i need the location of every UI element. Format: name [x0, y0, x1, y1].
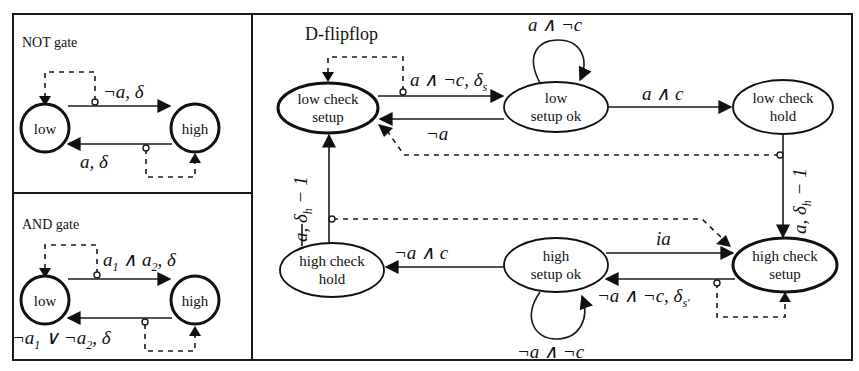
- not-gate-panel: NOT gate low high ¬a, δ a, δ: [21, 35, 219, 177]
- and-gate-panel: AND gate low high a1 ∧ a2, δ ¬a1 ∨ ¬a2, …: [12, 217, 219, 352]
- node-high-check-setup: [733, 238, 837, 292]
- node-high-setup-ok: [504, 238, 608, 292]
- and-edge-label-upper: a1 ∧ a2, δ: [103, 249, 177, 274]
- and-dashed-feedback-high: [145, 324, 195, 351]
- inhibitor-dot-icon: [329, 216, 335, 222]
- not-gate-title: NOT gate: [22, 35, 77, 50]
- inhibitor-dot-icon: [777, 152, 783, 158]
- and-edge-label-lower: ¬a1 ∨ ¬a2, δ: [12, 327, 112, 352]
- edge-lso-self-loop: [533, 40, 583, 83]
- label-lch-to-hcs: a, δh − 1: [789, 168, 814, 234]
- label-hso-to-hch: ¬a ∧ c: [394, 242, 449, 263]
- node-label: low: [34, 121, 57, 137]
- arrowhead-icon: [189, 326, 201, 336]
- label-hso-to-hcs: ia: [656, 228, 671, 249]
- node-label: high: [543, 248, 570, 264]
- label-hso-self: ¬a ∧ ¬c: [517, 341, 585, 362]
- inhibitor-dot-icon: [143, 145, 149, 151]
- diagram-canvas: NOT gate low high ¬a, δ a, δ AND gate lo…: [0, 0, 859, 371]
- node-low-check-hold: [733, 80, 833, 134]
- inhibitor-dot-icon: [400, 89, 406, 95]
- arrowhead-icon: [378, 124, 393, 137]
- inhibitor-dot-icon: [714, 280, 720, 286]
- edge-hso-self-loop: [531, 292, 584, 339]
- and-gate-title: AND gate: [22, 217, 79, 232]
- inhibitor-dot-icon: [92, 99, 98, 105]
- node-label: setup ok: [531, 266, 582, 282]
- node-label: high check: [752, 248, 818, 264]
- node-label: hold: [770, 108, 797, 124]
- node-label: high: [182, 293, 209, 309]
- arrowhead-icon: [716, 235, 731, 247]
- node-label: hold: [319, 271, 346, 287]
- not-edge-label-lower: a, δ: [80, 151, 109, 172]
- label-lso-self: a ∧ ¬c: [528, 14, 583, 35]
- node-label: low check: [752, 90, 814, 106]
- not-dashed-feedback-low: [45, 72, 95, 104]
- label-hch-to-lcs: a, δh − 1: [290, 176, 315, 242]
- label-lso-to-lch: a ∧ c: [642, 83, 684, 104]
- node-label: setup: [769, 266, 801, 282]
- node-label: high: [182, 121, 209, 137]
- outer-frame: [13, 14, 852, 360]
- not-edge-label-upper: ¬a, δ: [103, 81, 145, 102]
- node-label: setup ok: [531, 108, 582, 124]
- label-lcs-to-lso: a ∧ ¬c, δs: [410, 69, 488, 94]
- node-high-check-hold: [280, 243, 384, 297]
- and-dashed-feedback-low: [45, 245, 97, 276]
- node-label: setup: [312, 109, 344, 125]
- d-flipflop-panel: D-flipflop: [278, 14, 837, 362]
- inhibitor-dot-icon: [142, 319, 148, 325]
- inhibitor-dot-icon: [94, 272, 100, 278]
- node-label: high check: [299, 253, 365, 269]
- arrowhead-icon: [322, 72, 334, 82]
- label-hcs-to-hso: ¬a ∧ ¬c, δs': [597, 285, 690, 310]
- arrowhead-icon: [189, 153, 201, 163]
- label-lso-to-lcs: ¬a: [426, 123, 448, 144]
- node-label: low: [545, 90, 568, 106]
- node-label: low check: [297, 91, 359, 107]
- d-flipflop-title: D-flipflop: [305, 24, 378, 44]
- not-dashed-feedback-high: [146, 149, 195, 177]
- node-label: low: [34, 293, 57, 309]
